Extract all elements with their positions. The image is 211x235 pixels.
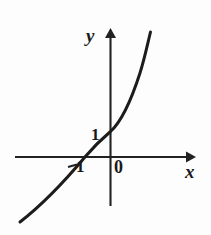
x-axis-label: x (185, 162, 195, 181)
exponential-curve (20, 32, 151, 222)
y-axis-arrow-icon (105, 28, 116, 38)
figure-container: y x 1 0 1 (0, 0, 211, 235)
plot-canvas (0, 0, 211, 235)
y-axis-label: y (86, 26, 94, 45)
origin-label-0: 0 (114, 158, 123, 176)
x-tick-label-negative-1: 1 (76, 158, 85, 175)
y-tick-label-1: 1 (91, 126, 100, 143)
